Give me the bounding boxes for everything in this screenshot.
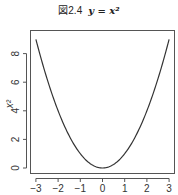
chart-svg: −3−2−10123 02468 x² (0, 0, 178, 194)
x-tick-label: −2 (52, 183, 64, 194)
x-tick-label: 2 (144, 183, 150, 194)
y-axis-label: x² (4, 99, 15, 109)
x-axis: −3−2−10123 (30, 179, 172, 195)
y-tick-label: 6 (10, 79, 21, 85)
x-tick-label: 1 (122, 183, 128, 194)
y-tick-label: 2 (10, 136, 21, 142)
plot-frame (31, 31, 175, 174)
x-tick-label: 0 (100, 183, 106, 194)
y-tick-label: 8 (10, 50, 21, 56)
x-tick-label: −1 (75, 183, 87, 194)
parabola-line (36, 39, 169, 168)
x-tick-label: 3 (166, 183, 172, 194)
y-axis: 02468 (10, 50, 27, 170)
x-tick-label: −3 (30, 183, 42, 194)
y-tick-label: 0 (10, 165, 21, 171)
